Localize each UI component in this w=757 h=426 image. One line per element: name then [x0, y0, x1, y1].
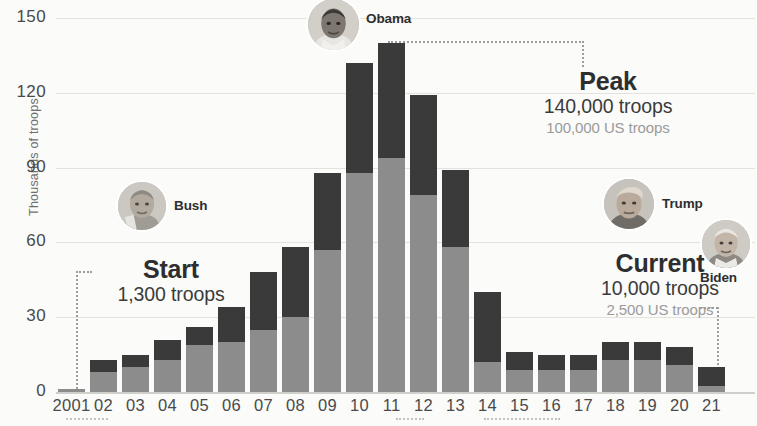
bar-segment-us-10	[346, 173, 373, 392]
bar-17	[570, 355, 597, 392]
x-tick-label-09: 09	[313, 396, 343, 415]
x-tick-label-21: 21	[697, 396, 727, 415]
bar-15	[506, 352, 533, 392]
annotation-current-line2: 2,500 US troops	[570, 301, 750, 319]
bar-segment-us-09	[314, 250, 341, 392]
bar-segment-us-17	[570, 370, 597, 392]
x-tick-label-06: 06	[217, 396, 247, 415]
bar-segment-other-19	[634, 342, 661, 359]
bar-05	[186, 327, 213, 392]
bar-segment-other-03	[122, 355, 149, 367]
annotation-start: Start 1,300 troops	[86, 256, 256, 307]
bottom-bracket-current	[484, 418, 560, 420]
bar-segment-us-12	[410, 195, 437, 392]
x-tick-label-10: 10	[345, 396, 375, 415]
bar-21	[698, 367, 725, 392]
y-tick-label: 90	[0, 157, 46, 177]
bar-18	[602, 342, 629, 392]
bar-segment-other-08	[282, 247, 309, 317]
bar-segment-other-06	[218, 307, 245, 342]
bush-avatar	[118, 182, 166, 230]
y-tick-label: 30	[0, 306, 46, 326]
annotation-peak: Peak 140,000 troops 100,000 US troops	[492, 68, 724, 137]
bar-11	[378, 43, 405, 392]
x-tick-label-08: 08	[281, 396, 311, 415]
bar-segment-us-03	[122, 367, 149, 392]
annotation-current-leader-cap	[700, 307, 718, 309]
x-tick-label-14: 14	[473, 396, 503, 415]
obama-label: Obama	[366, 11, 411, 26]
x-tick-label-20: 20	[665, 396, 695, 415]
annotation-peak-leader-drop	[582, 41, 584, 67]
biden-label: Biden	[700, 270, 737, 285]
bar-segment-other-05	[186, 327, 213, 344]
x-tick-label-19: 19	[633, 396, 663, 415]
annotation-peak-title: Peak	[492, 68, 724, 94]
trump-avatar	[604, 179, 654, 229]
annotation-peak-leader-line	[388, 41, 584, 43]
bar-20	[666, 347, 693, 392]
annotation-peak-line2: 100,000 US troops	[492, 119, 724, 137]
bar-segment-other-12	[410, 95, 437, 195]
bar-segment-us-07	[250, 330, 277, 392]
annotation-current-leader-line	[717, 307, 719, 365]
bar-segment-other-10	[346, 63, 373, 173]
bar-segment-us-08	[282, 317, 309, 392]
bar-06	[218, 307, 245, 392]
annotation-peak-line1: 140,000 troops	[492, 94, 724, 118]
bottom-bracket-peak	[396, 418, 424, 420]
bar-10	[346, 63, 373, 392]
bar-03	[122, 355, 149, 392]
x-tick-label-15: 15	[505, 396, 535, 415]
bar-segment-us-13	[442, 247, 469, 392]
bar-segment-other-09	[314, 173, 341, 250]
x-tick-label-04: 04	[153, 396, 183, 415]
bar-segment-other-14	[474, 292, 501, 362]
bar-segment-us-05	[186, 345, 213, 392]
bar-segment-other-18	[602, 342, 629, 359]
x-tick-label-07: 07	[249, 396, 279, 415]
bar-segment-us-04	[154, 360, 181, 392]
trump-label: Trump	[662, 196, 703, 211]
bar-segment-other-04	[154, 340, 181, 360]
bar-segment-us-06	[218, 342, 245, 392]
x-tick-label-16: 16	[537, 396, 567, 415]
bar-segment-us-11	[378, 158, 405, 392]
annotation-start-leader-line	[76, 271, 78, 389]
y-tick-label: 150	[0, 7, 46, 27]
annotation-start-line1: 1,300 troops	[86, 282, 256, 306]
bar-segment-us-20	[666, 365, 693, 392]
bar-segment-other-11	[378, 43, 405, 158]
bar-segment-other-13	[442, 170, 469, 247]
gridline-60	[56, 242, 755, 243]
x-tick-label-12: 12	[409, 396, 439, 415]
x-axis-line	[56, 392, 755, 394]
x-tick-label-05: 05	[185, 396, 215, 415]
bush-label: Bush	[174, 198, 207, 213]
bar-14	[474, 292, 501, 392]
bar-segment-us-02	[90, 372, 117, 392]
bar-segment-us-16	[538, 370, 565, 392]
x-tick-label-17: 17	[569, 396, 599, 415]
bar-segment-us-15	[506, 370, 533, 392]
annotation-start-leader-cap	[76, 271, 92, 273]
bar-segment-us-14	[474, 362, 501, 392]
bar-08	[282, 247, 309, 392]
x-tick-label-03: 03	[121, 396, 151, 415]
annotation-start-title: Start	[86, 256, 256, 282]
bar-12	[410, 95, 437, 392]
bar-segment-us-18	[602, 360, 629, 392]
x-tick-label-11: 11	[377, 396, 407, 415]
bar-segment-other-21	[698, 367, 725, 386]
bar-13	[442, 170, 469, 392]
bar-02	[90, 360, 117, 392]
biden-avatar	[702, 220, 750, 268]
y-tick-label: 60	[0, 231, 46, 251]
troops-bar-chart: Thousands of troops 0306090120150 200102…	[0, 0, 757, 426]
bar-segment-other-02	[90, 360, 117, 372]
obama-avatar	[308, 0, 359, 50]
bar-09	[314, 173, 341, 392]
y-tick-label: 0	[0, 381, 46, 401]
x-tick-label-02: 02	[89, 396, 119, 415]
bottom-bracket-start	[66, 418, 108, 420]
